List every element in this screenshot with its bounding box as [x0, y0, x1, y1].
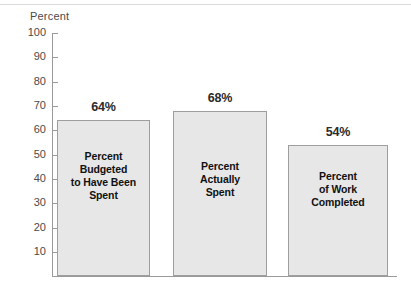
bar-chart-figure: Percent 100 90 80 70 60 50 40 30 20 10 P…: [0, 0, 411, 293]
bar-label-line-3: to Have Been: [58, 176, 149, 189]
bar-value-label-2: 68%: [173, 91, 267, 105]
y-tick-label-90: 90: [22, 50, 46, 62]
y-tick-label-20: 20: [22, 221, 46, 233]
bar-label-line-1: Percent: [58, 150, 149, 163]
bar-label-line-3: Spent: [174, 186, 266, 199]
y-tick-label-30: 30: [22, 196, 46, 208]
bar-label-line-1: Percent: [174, 160, 266, 173]
bar-label-line-2: Actually: [174, 173, 266, 186]
bar-percent-actually-spent[interactable]: Percent Actually Spent: [173, 111, 267, 276]
y-tick-label-100: 100: [22, 26, 46, 38]
bar-percent-work-completed[interactable]: Percent of Work Completed: [288, 145, 388, 276]
y-tick-label-10: 10: [22, 245, 46, 257]
y-tick-label-80: 80: [22, 75, 46, 87]
y-tick-label-40: 40: [22, 172, 46, 184]
x-axis-baseline: [52, 276, 397, 277]
bar-percent-budgeted[interactable]: Percent Budgeted to Have Been Spent: [57, 120, 150, 276]
bar-label-line-3: Completed: [289, 196, 387, 209]
bar-label-line-1: Percent: [289, 170, 387, 183]
bar-label-line-2: of Work: [289, 183, 387, 196]
plot-area: 100 90 80 70 60 50 40 30 20 10 Percent B…: [0, 0, 411, 293]
y-tick-mark-100: [52, 33, 58, 34]
y-tick-mark-80: [52, 82, 58, 83]
y-tick-label-50: 50: [22, 148, 46, 160]
bar-value-label-1: 64%: [57, 100, 150, 114]
y-tick-label-70: 70: [22, 99, 46, 111]
bar-value-label-3: 54%: [288, 125, 388, 139]
y-tick-mark-90: [52, 57, 58, 58]
bar-label-line-2: Budgeted: [58, 163, 149, 176]
y-tick-label-60: 60: [22, 123, 46, 135]
bar-label-line-4: Spent: [58, 189, 149, 202]
